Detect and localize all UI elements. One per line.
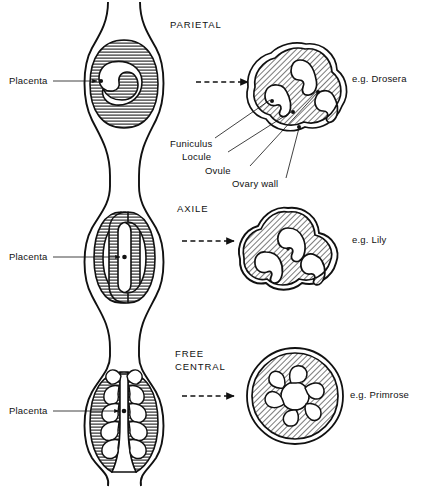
ovule-label: Ovule: [205, 165, 231, 176]
parietal-ovule-dot-2: [270, 99, 274, 103]
parietal-placenta-point: [99, 79, 103, 83]
free-central-placenta-point: [122, 409, 127, 414]
free-central-example-label: e.g. Primrose: [350, 389, 409, 400]
free-central-ovule-top-left: [106, 370, 121, 384]
axile-central-axis-dot: [286, 247, 289, 250]
free-central-cross-section: [247, 348, 343, 444]
free-central-heading-line1: FREE: [175, 348, 204, 359]
placentation-diagram: Placenta PARIETAL Funiculus Locule Ovule: [0, 0, 422, 488]
locule-label: Locule: [182, 151, 211, 162]
parietal-example-label: e.g. Drosera: [352, 73, 407, 84]
parietal-cross-section: [247, 43, 347, 131]
parietal-ovary-tissue: [90, 40, 158, 128]
free-central-placenta-label: Placenta: [9, 405, 48, 416]
parietal-heading: PARIETAL: [170, 19, 222, 30]
axile-placenta-point: [122, 255, 127, 260]
ovary-wall-label: Ovary wall: [232, 178, 278, 189]
axile-example-label: e.g. Lily: [352, 234, 387, 245]
free-central-ovule-top-right: [127, 370, 142, 384]
free-central-heading-line2: CENTRAL: [175, 361, 226, 372]
parietal-placenta-label: Placenta: [9, 75, 48, 86]
axile-heading: AXILE: [177, 203, 208, 214]
funiculus-label: Funiculus: [170, 138, 213, 149]
axile-placenta-label: Placenta: [9, 251, 48, 262]
parietal-ovule-dot-3: [291, 110, 295, 114]
